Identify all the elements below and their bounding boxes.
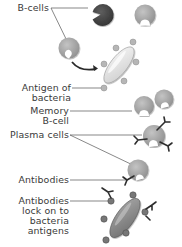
leader-plasma-diag — [70, 135, 137, 167]
label-b-cells: B-cells — [17, 3, 49, 13]
b-cell-dark — [93, 4, 114, 26]
label-memory-b-cell: Memory B-cell — [30, 106, 69, 126]
memory-b-cell-2 — [155, 90, 174, 109]
activation-arrow-icon — [72, 62, 98, 71]
memory-b-cell-1 — [134, 96, 154, 116]
label-plasma-cells: Plasma cells — [10, 130, 69, 140]
label-antibodies: Antibodies — [18, 175, 69, 185]
b-cell-activating — [59, 38, 80, 59]
label-antibodies-lock-on: Antibodies lock on to bacteria antigens — [18, 196, 69, 236]
leader-b-cells-diag — [51, 8, 68, 43]
label-antigen-of-bacteria: Antigen of bacteria — [22, 83, 71, 103]
b-cell-immune-response-diagram: B-cells Antigen of bacteria Memory B-cel… — [0, 0, 182, 247]
antibody-free — [123, 176, 134, 185]
b-cell-light-top — [135, 5, 156, 26]
